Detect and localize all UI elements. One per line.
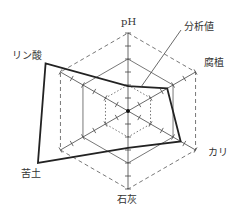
axis-tick bbox=[183, 76, 186, 81]
axis-tick bbox=[138, 102, 141, 107]
axis-tick bbox=[70, 76, 73, 81]
axis-label-magnesia: 苦土 bbox=[21, 169, 41, 179]
center-dot bbox=[126, 109, 130, 113]
axis-tick bbox=[104, 95, 107, 100]
axis-tick bbox=[59, 147, 62, 152]
axis-label-phosphate: リン酸 bbox=[12, 51, 42, 61]
axis-tick bbox=[160, 89, 163, 94]
radar-chart bbox=[0, 0, 241, 221]
series-annotation-label: 分析値 bbox=[184, 22, 214, 32]
axis-tick bbox=[70, 141, 73, 146]
axis-tick bbox=[183, 141, 186, 146]
axis-label-humus: 腐植 bbox=[204, 58, 224, 68]
axis-tick bbox=[93, 128, 96, 133]
axis-tick bbox=[160, 128, 163, 133]
axis-tick bbox=[138, 115, 141, 120]
axis-tick bbox=[93, 89, 96, 94]
axis-tick bbox=[115, 115, 118, 120]
axis-tick bbox=[149, 95, 152, 100]
axis-tick bbox=[115, 102, 118, 107]
axis-label-ph: pH bbox=[121, 17, 136, 27]
axis-label-potash: カリ bbox=[208, 148, 228, 158]
axis-label-lime: 石灰 bbox=[117, 195, 137, 205]
